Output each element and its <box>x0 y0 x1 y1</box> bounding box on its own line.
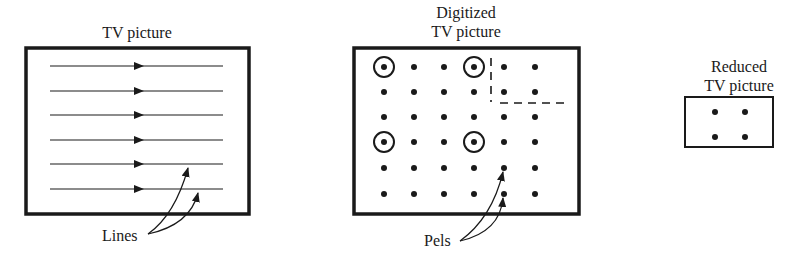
tv-picture-title: TV picture <box>102 24 171 42</box>
circled-pels <box>374 57 484 152</box>
reduced-title-line2: TV picture <box>704 77 773 95</box>
tv-picture-panel: TV picture Lines <box>26 24 249 244</box>
lines-callout-label: Lines <box>102 227 138 244</box>
scan-lines <box>50 66 223 189</box>
digitized-title-line1: Digitized <box>436 4 496 22</box>
lines-callout-arrows <box>148 168 198 234</box>
diagram-canvas: TV picture Lines Digitized TV picture <box>0 0 803 257</box>
reduced-panel: Reduced TV picture <box>685 58 774 147</box>
scan-direction-arrows <box>134 62 144 193</box>
reduced-frame <box>685 97 773 147</box>
pels-callout-label: Pels <box>424 232 451 249</box>
reduced-pel-grid <box>712 109 748 140</box>
pel-grid <box>381 64 538 197</box>
digitized-panel: Digitized TV picture Pels <box>354 4 579 249</box>
pels-callout-arrows <box>460 172 503 241</box>
reduced-title-line1: Reduced <box>711 58 767 75</box>
digitized-title-line2: TV picture <box>431 23 500 41</box>
